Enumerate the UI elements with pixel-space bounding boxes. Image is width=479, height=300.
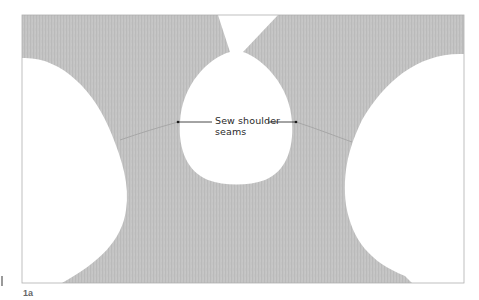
callout-label: Sew shoulderseams	[215, 115, 285, 137]
fabric-illustration	[0, 0, 479, 300]
margin-mark	[1, 276, 3, 286]
right-leader-dot	[295, 121, 298, 124]
figure-number: 1a	[23, 288, 33, 298]
left-leader-dot	[177, 121, 180, 124]
garment-figure: Sew shoulderseams 1a	[0, 0, 479, 300]
fabric-body	[22, 15, 464, 283]
fabric-panel	[22, 15, 464, 283]
callout-line-1: Sew shoulder	[215, 115, 280, 126]
callout-line-2: seams	[215, 126, 246, 137]
